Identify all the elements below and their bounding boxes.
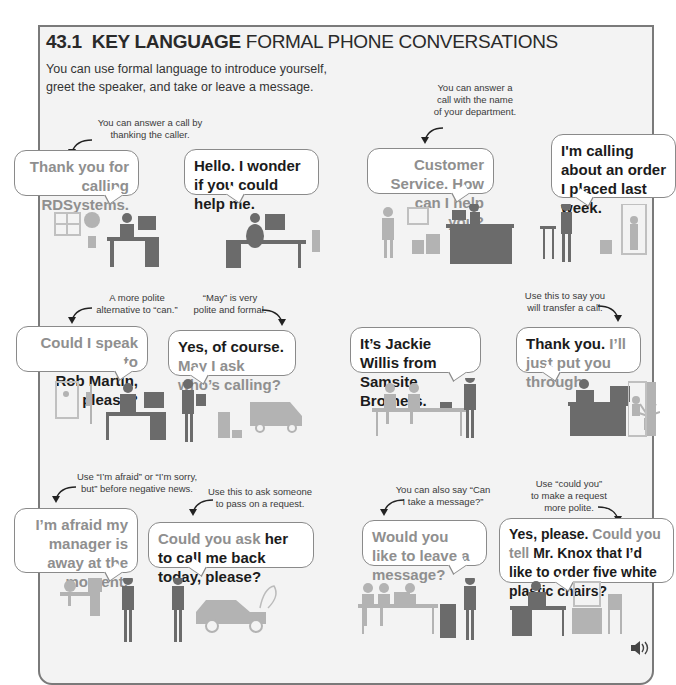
- intro-line: greet the speaker, and take or leave a m…: [46, 78, 327, 96]
- intro-line: You can use formal language to introduce…: [46, 60, 327, 78]
- annotation-note: A more politealternative to “can.”: [92, 292, 182, 316]
- curved-arrow-icon: [48, 483, 78, 505]
- speech-bubble: I'm calling about an order I placed last…: [551, 134, 676, 198]
- office-illustration: [60, 578, 290, 646]
- title-rest: FORMAL PHONE CONVERSATIONS: [246, 31, 558, 52]
- speech-bubble: Could I speak to Rob Martin, please?: [16, 326, 148, 372]
- door-illustration: [628, 380, 658, 440]
- curved-arrow-icon: [260, 306, 290, 328]
- speech-bubble: It’s Jackie Willis from Samsite Brothers…: [350, 327, 481, 373]
- speech-bubble: Could you ask her to call me back today,…: [148, 522, 314, 568]
- annotation-note: You can answer a call bythanking the cal…: [80, 117, 220, 141]
- speech-bubble: Thank you for calling RDSystems.: [14, 150, 139, 196]
- intro-text: You can use formal language to introduce…: [46, 60, 327, 96]
- speech-bubble: Hello. I wonder if you could help me.: [184, 149, 319, 195]
- speaker-icon[interactable]: [630, 640, 650, 656]
- speech-bubble: Customer Service. How can I help you?: [367, 148, 494, 194]
- office-illustration: [358, 578, 628, 646]
- section-number: 43.1: [46, 31, 82, 52]
- curved-arrow-icon: [596, 302, 626, 324]
- office-illustration: [370, 378, 660, 448]
- office-illustration: [370, 204, 660, 270]
- annotation-note: You can answer acall with the nameof you…: [420, 82, 530, 118]
- speech-bubble: Would you like to leave a message?: [362, 520, 487, 566]
- annotation-note: Use this to ask someoneto pass on a requ…: [205, 486, 315, 510]
- curved-arrow-icon: [417, 124, 447, 146]
- office-illustration: [50, 210, 320, 272]
- office-illustration: [54, 378, 314, 448]
- speech-bubble: Yes, please. Could you tell Mr. Knox tha…: [499, 518, 674, 583]
- section-title: 43.1 KEY LANGUAGE FORMAL PHONE CONVERSAT…: [46, 31, 558, 53]
- annotation-note: Use “I’m afraid” or “I’m sorry,but” befo…: [72, 471, 202, 495]
- title-bold: KEY LANGUAGE: [92, 31, 241, 52]
- curved-arrow-icon: [64, 304, 94, 326]
- speech-bubble: Yes, of course. May I ask who’s calling?: [168, 330, 296, 376]
- curved-arrow-icon: [376, 496, 406, 518]
- speech-bubble: I’m afraid my manager is away at the mom…: [14, 508, 138, 573]
- speech-bubble: Thank you. I’ll just put you through.: [516, 327, 641, 373]
- annotation-note: You can also say “CanI take a message?”: [395, 484, 491, 508]
- curved-arrow-icon: [185, 496, 215, 518]
